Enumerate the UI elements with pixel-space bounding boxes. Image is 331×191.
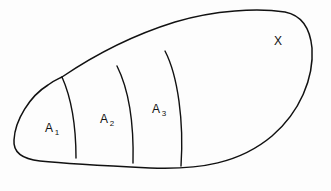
universal-set-label: X: [274, 34, 282, 48]
venn-diagram-canvas: [0, 0, 331, 191]
subset-label-a3-base: A: [152, 102, 160, 116]
subset-label-a2: A2: [100, 112, 113, 126]
divider-arc-a2: [117, 66, 133, 163]
subset-label-a3: A3: [152, 102, 165, 116]
subset-label-a1-base: A: [45, 121, 53, 135]
universal-set-outline: [14, 10, 312, 168]
divider-arc-a3: [165, 51, 182, 166]
set-partition-figure: A1 A2 A3 X: [0, 0, 331, 191]
subset-label-a2-base: A: [100, 112, 108, 126]
subset-label-a1: A1: [45, 121, 58, 135]
subset-label-a1-subscript: 1: [55, 128, 60, 137]
divider-arc-a1: [62, 77, 76, 158]
subset-label-a2-subscript: 2: [110, 119, 115, 128]
subset-label-a3-subscript: 3: [162, 109, 167, 118]
